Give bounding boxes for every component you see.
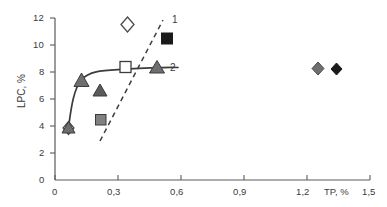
- marker-triangle-0215: [93, 84, 107, 96]
- y-axis-ticks: [50, 18, 55, 153]
- marker-diamond-open-high: [121, 17, 134, 32]
- marker-square-filled: [162, 33, 173, 44]
- marker-diamond-filled-right: [331, 63, 342, 75]
- chart-root: LPC, % 12 10 8 6 4 2 0 0 0,3 0,6 0,9 1,2…: [0, 0, 387, 207]
- marker-square-gray: [96, 115, 107, 126]
- plot-area: [0, 0, 387, 207]
- axis-lines: [55, 18, 370, 180]
- marker-diamond-gray-right: [312, 62, 324, 75]
- marker-square-open: [120, 62, 131, 73]
- series-1-dashed-line: [100, 20, 163, 141]
- x-axis-ticks: [55, 175, 370, 180]
